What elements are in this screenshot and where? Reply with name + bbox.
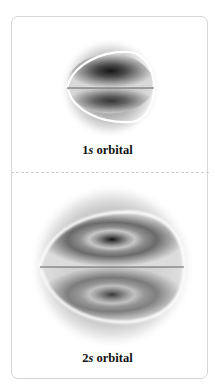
orbital-2s-word: orbital	[93, 351, 132, 365]
orbital-1s-label: 1s orbital	[0, 143, 215, 158]
orbital-2s-label: 2s orbital	[0, 351, 215, 366]
orbital-1s-word: orbital	[93, 143, 132, 157]
orbital-1s-illustration	[60, 38, 160, 138]
dashed-divider	[11, 172, 209, 173]
orbital-2s-illustration	[30, 186, 194, 346]
